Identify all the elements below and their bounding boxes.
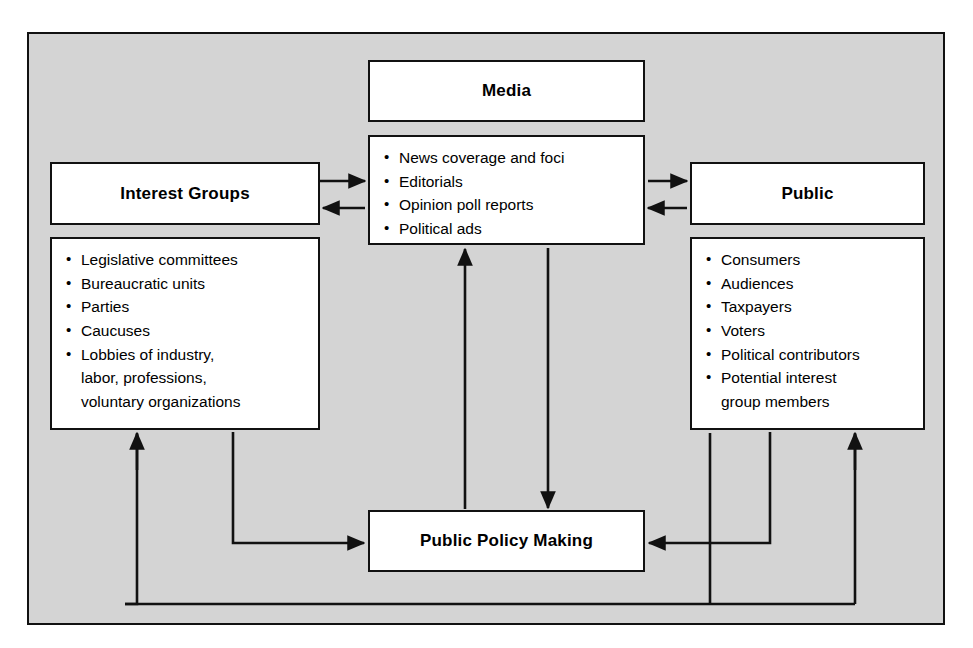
list-item: Political contributors [706, 344, 911, 366]
list-item-continuation: voluntary organizations [66, 391, 306, 413]
node-media-details[interactable]: News coverage and foci Editorials Opinio… [368, 135, 645, 245]
list-item: Opinion poll reports [384, 194, 631, 216]
list-item: Lobbies of industry, [66, 344, 306, 366]
diagram-canvas: Media News coverage and foci Editorials … [0, 0, 973, 648]
list-item-continuation: group members [706, 391, 911, 413]
interest-groups-item-list: Legislative committees Bureaucratic unit… [66, 249, 306, 413]
node-public-policy-making[interactable]: Public Policy Making [368, 510, 645, 572]
list-item: Taxpayers [706, 296, 911, 318]
public-label: Public [781, 184, 833, 204]
interest-groups-label: Interest Groups [120, 184, 250, 204]
node-interest-groups-title[interactable]: Interest Groups [50, 162, 320, 225]
node-public-details[interactable]: Consumers Audiences Taxpayers Voters Pol… [690, 237, 925, 430]
list-item: Bureaucratic units [66, 273, 306, 295]
media-label: Media [482, 81, 531, 101]
list-item: Potential interest [706, 367, 911, 389]
list-item: News coverage and foci [384, 147, 631, 169]
list-item: Legislative committees [66, 249, 306, 271]
list-item: Consumers [706, 249, 911, 271]
media-item-list: News coverage and foci Editorials Opinio… [384, 147, 631, 240]
node-public-title[interactable]: Public [690, 162, 925, 225]
list-item-continuation: labor, professions, [66, 367, 306, 389]
list-item: Audiences [706, 273, 911, 295]
list-item: Editorials [384, 171, 631, 193]
list-item: Voters [706, 320, 911, 342]
list-item: Parties [66, 296, 306, 318]
public-item-list: Consumers Audiences Taxpayers Voters Pol… [706, 249, 911, 413]
policy-label: Public Policy Making [420, 531, 593, 551]
node-interest-groups-details[interactable]: Legislative committees Bureaucratic unit… [50, 237, 320, 430]
node-media-title[interactable]: Media [368, 60, 645, 122]
list-item: Political ads [384, 218, 631, 240]
list-item: Caucuses [66, 320, 306, 342]
